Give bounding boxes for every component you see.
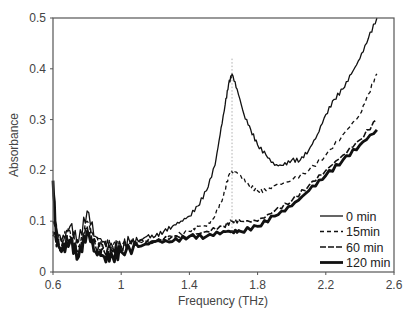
legend-label: 60 min [346,241,384,255]
x-tick-label: 2.6 [386,278,403,292]
y-tick-label: 0.4 [29,62,46,76]
legend: 0 min15min60 min120 min [320,210,391,271]
x-axis-label: Frequency (THz) [178,294,268,308]
series-layer [53,18,377,262]
plot-frame [53,18,394,272]
y-tick-label: 0.5 [29,11,46,25]
legend-label: 0 min [346,210,377,224]
y-tick-label: 0.2 [29,163,46,177]
legend-label: 120 min [346,256,391,270]
y-axis-label: Absorbance [7,113,21,177]
x-tick-label: 1.4 [181,278,198,292]
x-tick-label: 2.2 [317,278,334,292]
x-tick-label: 0.6 [45,278,62,292]
x-axis-ticks: 0.611.41.82.22.6 [45,272,403,292]
legend-label: 15min [346,225,380,239]
y-tick-label: 0 [39,265,46,279]
y-axis-ticks: 00.10.20.30.40.5 [29,11,53,279]
y-tick-label: 0.3 [29,113,46,127]
absorbance-chart: 00.10.20.30.40.5 0.611.41.82.22.6 Freque… [0,0,412,317]
y-tick-label: 0.1 [29,214,46,228]
x-tick-label: 1 [118,278,125,292]
x-tick-label: 1.8 [249,278,266,292]
